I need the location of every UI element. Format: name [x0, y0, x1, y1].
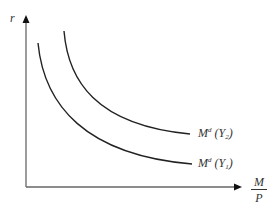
x-axis-label: M P	[251, 176, 267, 204]
x-axis-arrow-icon	[234, 184, 242, 191]
y-axis-arrow-icon	[23, 15, 30, 23]
x-axis-label-denominator: P	[255, 191, 262, 205]
x-axis-label-numerator: M	[254, 175, 264, 189]
curve-md-y2	[64, 31, 190, 134]
curve-label-md-y1: Md (Y1)	[198, 157, 233, 171]
curve-label-md-y2: Md (Y2)	[198, 127, 233, 141]
y-axis-label: r	[10, 12, 15, 24]
diagram-canvas	[0, 0, 272, 210]
curve-md-y1	[38, 43, 192, 164]
fraction-bar	[251, 189, 267, 190]
